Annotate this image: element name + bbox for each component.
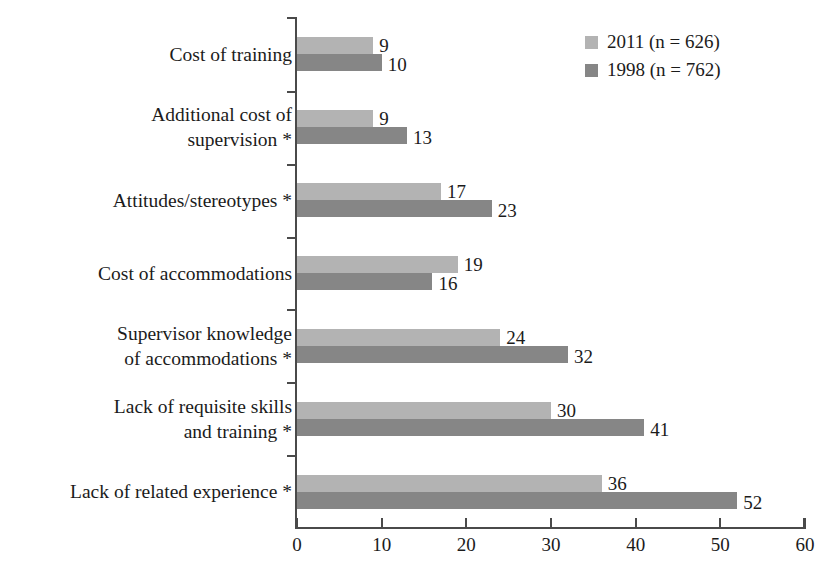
- bar-value-1998: 13: [413, 128, 432, 147]
- legend-swatch-icon-1998: [585, 64, 598, 77]
- bar-2011: [297, 475, 602, 492]
- bar-1998: [297, 54, 382, 71]
- bar-value-2011: 17: [447, 182, 466, 201]
- x-axis-tick-label: 30: [542, 534, 561, 556]
- bar-1998: [297, 273, 432, 290]
- bar-2011: [297, 402, 551, 419]
- x-axis-tick: [719, 518, 721, 529]
- x-axis-tick-label: 60: [796, 534, 815, 556]
- bar-value-1998: 16: [438, 274, 457, 293]
- bar-1998: [297, 127, 407, 144]
- y-axis-tick: [287, 309, 296, 311]
- x-axis-tick-label: 10: [372, 534, 391, 556]
- bar-value-1998: 52: [743, 493, 762, 512]
- x-axis-tick: [381, 518, 383, 529]
- x-axis-tick-label: 50: [711, 534, 730, 556]
- bar-value-2011: 9: [379, 109, 389, 128]
- legend-item-2011[interactable]: 2011 (n = 626): [585, 28, 721, 56]
- bar-value-2011: 36: [608, 474, 627, 493]
- y-axis-top-cap: [287, 17, 296, 19]
- bar-2011: [297, 110, 373, 127]
- category-label: Lack of requisite skills and training *: [0, 394, 292, 444]
- bar-2011: [297, 37, 373, 54]
- bar-value-1998: 32: [574, 347, 593, 366]
- legend-swatch-icon-2011: [585, 36, 598, 49]
- category-label: Lack of related experience *: [0, 479, 292, 504]
- bar-value-1998: 23: [498, 201, 517, 220]
- bar-value-2011: 9: [379, 36, 389, 55]
- bar-2011: [297, 183, 441, 200]
- category-label: Cost of training: [0, 42, 292, 67]
- x-axis-tick: [635, 518, 637, 529]
- bar-1998: [297, 346, 568, 363]
- bar-1998: [297, 419, 644, 436]
- legend-item-1998[interactable]: 1998 (n = 762): [585, 56, 721, 84]
- y-axis-tick: [287, 91, 296, 93]
- category-label: Cost of accommodations: [0, 261, 292, 286]
- bar-1998: [297, 492, 737, 509]
- legend-label-1998: 1998 (n = 762): [607, 59, 721, 81]
- y-axis-tick: [287, 382, 296, 384]
- bar-2011: [297, 329, 500, 346]
- x-axis-tick: [296, 518, 298, 529]
- legend: 2011 (n = 626) 1998 (n = 762): [585, 28, 721, 84]
- x-axis-tick: [465, 518, 467, 529]
- bar-value-2011: 24: [506, 328, 525, 347]
- y-axis-tick: [287, 237, 296, 239]
- bar-2011: [297, 256, 458, 273]
- y-axis-tick: [287, 455, 296, 457]
- x-axis-tick-label: 40: [626, 534, 645, 556]
- category-label: Attitudes/stereotypes *: [0, 188, 292, 213]
- bar-value-1998: 10: [388, 55, 407, 74]
- horizontal-bar-chart: 0102030405060 Cost of training910Additio…: [0, 0, 832, 588]
- x-axis-tick-label: 20: [457, 534, 476, 556]
- x-axis-tick: [550, 518, 552, 529]
- x-axis-tick-label: 0: [292, 534, 302, 556]
- category-label: Supervisor knowledge of accommodations *: [0, 321, 292, 371]
- bar-value-2011: 19: [464, 255, 483, 274]
- bar-value-1998: 41: [650, 420, 669, 439]
- y-axis-tick: [287, 164, 296, 166]
- bar-value-2011: 30: [557, 401, 576, 420]
- category-label: Additional cost of supervision *: [0, 102, 292, 152]
- bar-1998: [297, 200, 492, 217]
- x-axis-tick: [804, 518, 806, 529]
- legend-label-2011: 2011 (n = 626): [607, 31, 720, 53]
